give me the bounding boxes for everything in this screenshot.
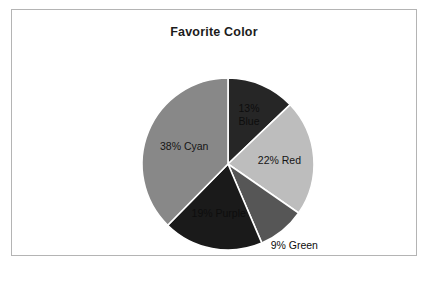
pie-chart: 13% Blue22% Red9% Green19% Purple38% Cya…: [131, 67, 325, 261]
chart-frame: Favorite Color 13% Blue22% Red9% Green19…: [11, 9, 417, 256]
chart-title: Favorite Color: [12, 25, 416, 39]
slice-label-red: 22% Red: [258, 153, 301, 166]
slice-label-blue: 13% Blue: [238, 102, 259, 128]
slice-label-green: 9% Green: [271, 239, 318, 252]
slice-label-cyan: 38% Cyan: [160, 140, 208, 153]
slice-label-purple: 19% Purple: [192, 207, 246, 220]
